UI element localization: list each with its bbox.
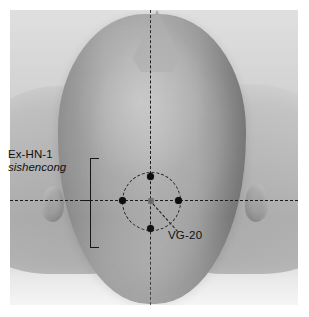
right-ear [245,184,268,222]
posterior-sishencong-point [147,225,154,232]
midsagittal-axis-line [150,10,151,305]
left-sishencong-point [119,197,126,204]
central-vg20-point [148,198,154,204]
right-sishencong-point [175,197,182,204]
anterior-sishencong-point [147,173,154,180]
exhn1-label: Ex-HN-1 sishencong [8,148,66,175]
acupuncture-point-figure: Ex-HN-1 sishencong VG-20 [0,0,309,317]
exhn1-code-text: Ex-HN-1 [8,148,66,161]
exhn1-leader-tick [82,200,90,201]
left-ear [42,186,64,222]
exhn1-pinyin-text: sishencong [8,161,66,174]
exhn1-span-bracket [90,158,99,248]
vg20-label: VG-20 [168,229,202,241]
